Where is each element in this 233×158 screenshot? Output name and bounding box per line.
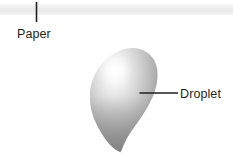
droplet-lower-shading	[86, 96, 162, 156]
droplet-label: Droplet	[180, 87, 221, 101]
paper-label: Paper	[17, 27, 51, 41]
droplet-specular-highlight	[96, 54, 134, 86]
figure-canvas: Paper Droplet	[0, 0, 233, 158]
droplet-on-paper-figure: Paper Droplet	[0, 0, 233, 158]
droplet-shape	[86, 48, 162, 156]
paper-band	[0, 4, 233, 16]
